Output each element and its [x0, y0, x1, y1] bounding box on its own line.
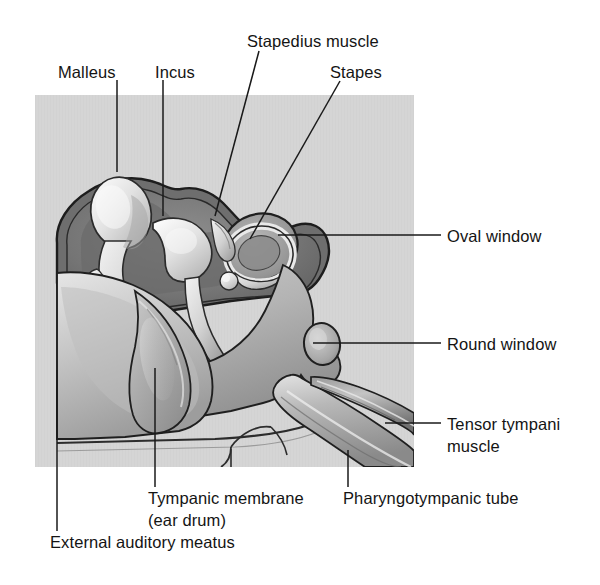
label-stapedius-muscle: Stapedius muscle: [247, 31, 379, 53]
label-tensor-tympani-line1: Tensor tympani: [447, 415, 560, 433]
label-stapes: Stapes: [330, 62, 382, 84]
label-round-window: Round window: [447, 334, 556, 356]
label-external-auditory-meatus: External auditory meatus: [50, 532, 235, 554]
label-incus: Incus: [155, 62, 195, 84]
ear-anatomy-figure: Malleus Incus Stapedius muscle Stapes Ov…: [0, 0, 600, 585]
label-tympanic-membrane-line1: Tympanic membrane: [148, 489, 304, 507]
label-oval-window: Oval window: [447, 226, 542, 248]
label-tympanic-membrane-line2: (ear drum): [148, 511, 226, 529]
label-tympanic-membrane: Tympanic membrane (ear drum): [148, 488, 348, 532]
middle-ear-illustration: [35, 95, 414, 467]
label-pharyngotympanic-tube: Pharyngotympanic tube: [343, 488, 518, 510]
label-tensor-tympani-line2: muscle: [447, 437, 500, 455]
label-tensor-tympani-muscle: Tensor tympani muscle: [447, 414, 592, 458]
label-malleus: Malleus: [58, 62, 116, 84]
